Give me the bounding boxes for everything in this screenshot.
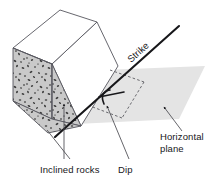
label-dip: Dip bbox=[118, 164, 133, 175]
label-strike: Strike bbox=[125, 40, 151, 65]
strike-dip-diagram: Strike Dip Inclined rocks Horizontal pla… bbox=[0, 0, 209, 185]
diagram-canvas: Strike Dip Inclined rocks Horizontal pla… bbox=[0, 0, 209, 185]
label-inclined-rocks: Inclined rocks bbox=[40, 164, 100, 175]
label-horizontal-plane-line1: Horizontal bbox=[160, 131, 204, 142]
label-horizontal-plane-line2: plane bbox=[160, 143, 184, 154]
